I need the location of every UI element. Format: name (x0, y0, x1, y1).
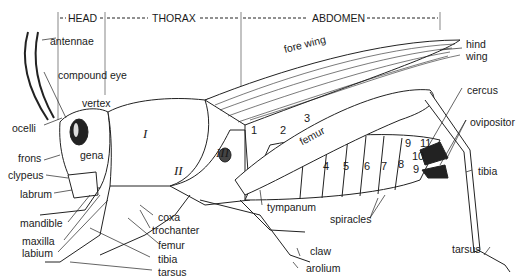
abdominal-segment-6: 6 (364, 160, 370, 172)
label-maxilla: maxilla (22, 235, 55, 247)
label-ovipositor: ovipositor (470, 116, 515, 128)
thoracic-segment-3: III (216, 145, 229, 161)
label-tibia-hind: tibia (478, 165, 497, 177)
label-tarsus-leg: tarsus (158, 266, 187, 278)
section-label-head: HEAD (66, 12, 99, 24)
label-hind-wing-1: hind (466, 38, 486, 50)
label-coxa: coxa (158, 211, 180, 223)
label-mandible: mandible (20, 217, 63, 229)
abdominal-segment-9-upper: 9 (405, 137, 411, 149)
label-compound-eye: compound eye (58, 69, 127, 81)
abdominal-segment-9-lower: 9 (413, 163, 419, 175)
abdominal-segment-5: 5 (343, 160, 349, 172)
abdominal-segment-1: 1 (251, 124, 257, 136)
label-claw: claw (310, 245, 331, 257)
abdominal-segment-3: 3 (304, 112, 310, 124)
label-tibia-leg: tibia (158, 253, 177, 265)
label-trochanter: trochanter (152, 224, 199, 236)
label-tympanum: tympanum (267, 201, 316, 213)
abdominal-segment-11: 11 (420, 137, 431, 149)
label-arolium: arolium (306, 262, 340, 274)
label-tarsus-hind: tarsus (452, 243, 481, 255)
thoracic-segment-2: II (174, 163, 183, 179)
label-gena: gena (80, 149, 103, 161)
label-antennae: antennae (50, 35, 94, 47)
label-clypeus: clypeus (8, 169, 44, 181)
label-femur-leg: femur (158, 239, 185, 251)
label-ocelli: ocelli (12, 122, 36, 134)
label-cercus: cercus (467, 84, 498, 96)
label-spiracles: spiracles (330, 213, 371, 225)
label-labium: labium (22, 247, 53, 259)
abdominal-segment-2: 2 (280, 124, 286, 136)
grasshopper-anatomy-diagram: HEAD THORAX ABDOMEN antennae compound ey… (0, 0, 525, 280)
abdominal-segment-8: 8 (398, 158, 404, 170)
section-label-thorax: THORAX (150, 12, 198, 24)
label-hind-wing-2: wing (466, 50, 488, 62)
label-frons: frons (18, 152, 41, 164)
label-labrum: labrum (20, 188, 52, 200)
thoracic-segment-1: I (143, 126, 147, 142)
abdominal-segment-7: 7 (381, 160, 387, 172)
section-label-abdomen: ABDOMEN (310, 12, 367, 24)
abdominal-segment-10: 10 (412, 150, 424, 162)
abdominal-segment-4: 4 (323, 160, 329, 172)
label-vertex: vertex (82, 97, 111, 109)
